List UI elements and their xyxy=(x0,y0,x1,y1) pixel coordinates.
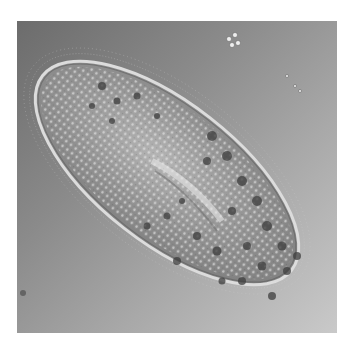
debris-speck xyxy=(20,290,26,296)
debris-particles xyxy=(227,33,302,93)
paramecium-illustration xyxy=(17,21,337,333)
micrograph-photo xyxy=(17,21,337,333)
